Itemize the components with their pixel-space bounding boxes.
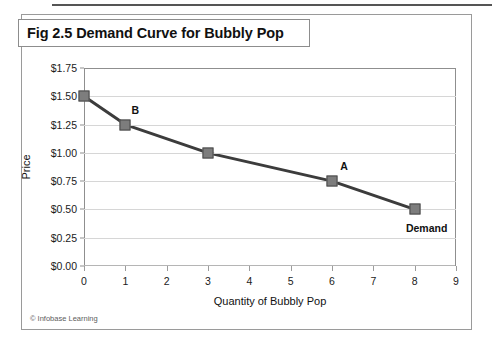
page-top-rule xyxy=(52,4,492,6)
demand-curve-line xyxy=(84,68,456,266)
y-gridline xyxy=(84,96,456,97)
data-point-marker[interactable] xyxy=(203,147,214,158)
x-tick-mark xyxy=(125,266,126,271)
y-tick-label: $1.00 xyxy=(51,147,77,159)
point-annotation-a: A xyxy=(340,160,348,172)
x-tick-label: 4 xyxy=(246,275,252,287)
x-tick-mark xyxy=(373,266,374,271)
y-tick-label: $1.75 xyxy=(51,62,77,74)
x-tick-label: 2 xyxy=(164,275,170,287)
y-tick-label: $1.50 xyxy=(51,90,77,102)
y-tick-label: $0.75 xyxy=(51,175,77,187)
x-tick-label: 3 xyxy=(205,275,211,287)
x-tick-label: 0 xyxy=(81,275,87,287)
x-tick-mark xyxy=(332,266,333,271)
y-gridline xyxy=(84,209,456,210)
data-point-marker[interactable] xyxy=(409,204,420,215)
x-tick-mark xyxy=(249,266,250,271)
point-annotation-demand: Demand xyxy=(406,222,447,234)
data-point-marker[interactable] xyxy=(327,176,338,187)
y-gridline xyxy=(84,125,456,126)
x-tick-mark xyxy=(456,266,457,271)
y-gridline xyxy=(84,238,456,239)
x-tick-mark xyxy=(167,266,168,271)
y-tick-mark xyxy=(80,68,84,69)
x-tick-mark xyxy=(415,266,416,271)
point-annotation-b: B xyxy=(132,104,140,116)
x-tick-mark xyxy=(84,266,85,271)
y-gridline xyxy=(84,153,456,154)
figure-title: Fig 2.5 Demand Curve for Bubbly Pop xyxy=(27,25,284,41)
x-axis-title: Quantity of Bubbly Pop xyxy=(84,295,456,307)
data-point-marker[interactable] xyxy=(120,119,131,130)
y-tick-mark xyxy=(80,152,84,153)
x-tick-label: 1 xyxy=(122,275,128,287)
y-tick-mark xyxy=(80,124,84,125)
x-tick-label: 7 xyxy=(370,275,376,287)
y-tick-label: $1.25 xyxy=(51,119,77,131)
x-tick-label: 5 xyxy=(288,275,294,287)
copyright-credit: © Infobase Learning xyxy=(30,314,98,323)
plot-area: $0.00$0.25$0.50$0.75$1.00$1.25$1.50$1.75… xyxy=(84,68,456,266)
figure-title-box: Fig 2.5 Demand Curve for Bubbly Pop xyxy=(18,19,310,47)
y-tick-mark xyxy=(80,209,84,210)
x-tick-label: 8 xyxy=(412,275,418,287)
y-tick-label: $0.00 xyxy=(51,260,77,272)
y-tick-label: $0.50 xyxy=(51,203,77,215)
y-tick-label: $0.25 xyxy=(51,232,77,244)
y-tick-mark xyxy=(80,237,84,238)
y-axis-title: Price xyxy=(20,154,32,179)
x-tick-label: 6 xyxy=(329,275,335,287)
x-tick-mark xyxy=(291,266,292,271)
x-tick-label: 9 xyxy=(453,275,459,287)
data-point-marker[interactable] xyxy=(79,91,90,102)
y-gridline xyxy=(84,181,456,182)
x-tick-mark xyxy=(208,266,209,271)
y-tick-mark xyxy=(80,181,84,182)
figure-page: Fig 2.5 Demand Curve for Bubbly Pop Pric… xyxy=(0,0,495,357)
